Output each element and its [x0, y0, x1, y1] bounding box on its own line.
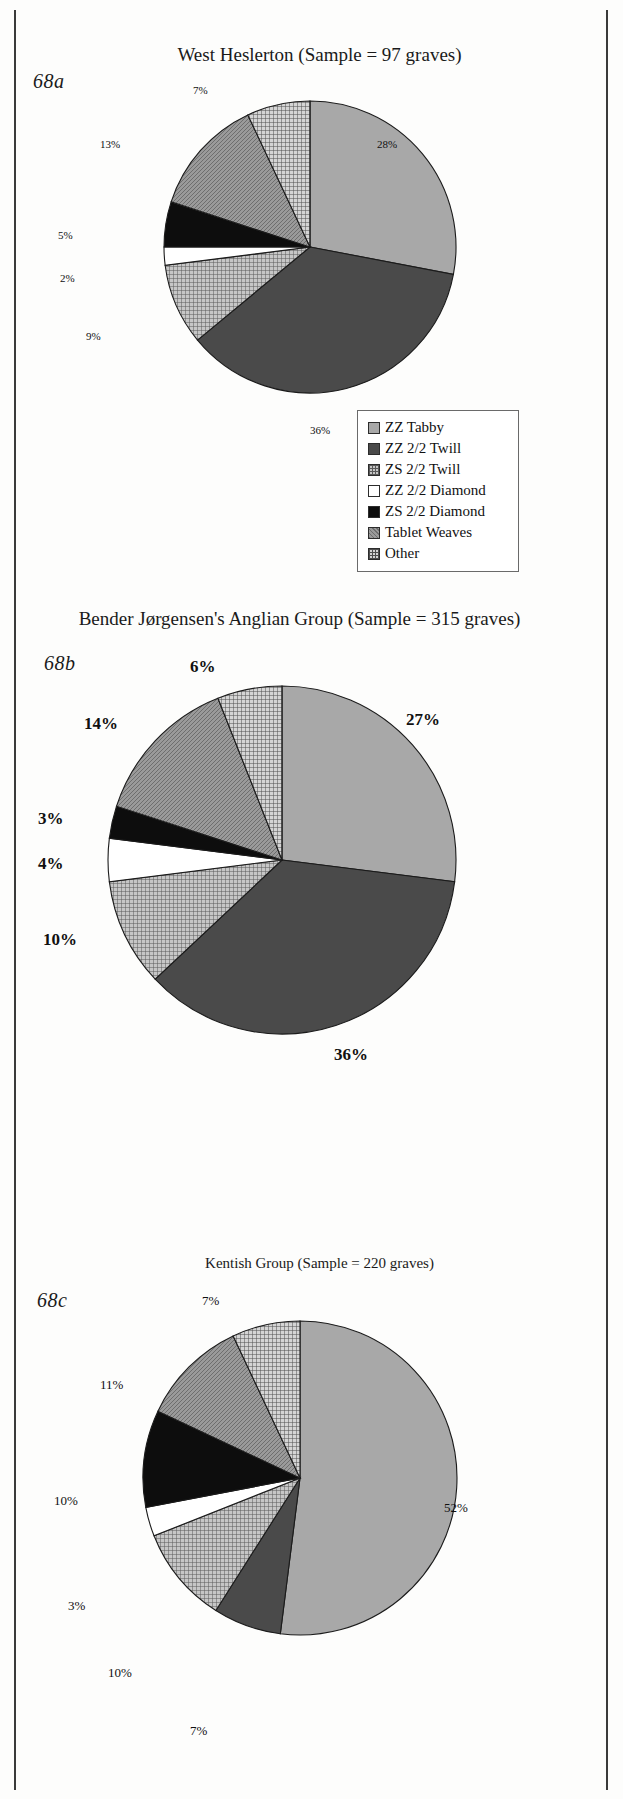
chart-title-68c: Kentish Group (Sample = 220 graves) — [8, 1255, 623, 1272]
legend-item-tablet-weaves[interactable]: Tablet Weaves — [368, 522, 510, 543]
slice-label-68b-tablet: 14% — [84, 714, 118, 734]
slice-label-68a-zz22t: 36% — [310, 424, 330, 436]
legend-swatch-icon-tablet-weaves — [368, 527, 380, 539]
slice-label-68c-other: 7% — [202, 1293, 219, 1309]
legend-item-zs-2-2-diamond[interactable]: ZS 2/2 Diamond — [368, 501, 510, 522]
slice-label-68c-zz22d: 3% — [68, 1598, 85, 1614]
slice-label-68b-zz22t: 36% — [334, 1045, 368, 1065]
legend-swatch-icon-zs-2-2-diamond — [368, 506, 380, 518]
legend-swatch-icon-zz-tabby — [368, 422, 380, 434]
slice-label-68c-tabby: 52% — [444, 1500, 468, 1516]
legend-label-zz-2-2-diamond: ZZ 2/2 Diamond — [385, 483, 486, 498]
slice-label-68a-zs22d: 5% — [58, 229, 73, 241]
page-rule-right — [606, 10, 608, 1790]
page-rule-left — [14, 10, 16, 1790]
slice-label-68a-tablet: 13% — [100, 138, 120, 150]
slice-label-68a-zz22d: 2% — [60, 272, 75, 284]
slice-label-68a-other: 7% — [193, 84, 208, 96]
slice-label-68b-tabby: 27% — [406, 710, 440, 730]
figure-page: West Heslerton (Sample = 97 graves) 68a … — [0, 0, 623, 1799]
legend-label-zs-2-2-diamond: ZS 2/2 Diamond — [385, 504, 485, 519]
pie-chart-68c — [140, 1318, 460, 1638]
legend-label-other: Other — [385, 546, 419, 561]
slice-label-68c-zs22d: 10% — [54, 1493, 78, 1509]
slice-label-68c-zs22t: 10% — [108, 1665, 132, 1681]
pie-slice — [280, 1321, 457, 1635]
pie-slice — [310, 101, 456, 274]
legend-item-zz-2-2-twill[interactable]: ZZ 2/2 Twill — [368, 438, 510, 459]
chart-title-68b: Bender Jørgensen's Anglian Group (Sample… — [0, 608, 611, 630]
slice-label-68c-tablet: 11% — [100, 1377, 123, 1393]
legend-label-tablet-weaves: Tablet Weaves — [385, 525, 472, 540]
slice-label-68a-zs22t: 9% — [86, 330, 101, 342]
figure-label-68b: 68b — [44, 652, 76, 675]
chart-title-68a: West Heslerton (Sample = 97 graves) — [8, 44, 623, 66]
legend-item-zz-tabby[interactable]: ZZ Tabby — [368, 417, 510, 438]
slice-label-68b-zs22d: 3% — [38, 809, 64, 829]
legend: ZZ Tabby ZZ 2/2 Twill ZS 2/2 Twill ZZ 2/… — [357, 410, 519, 572]
figure-label-68a: 68a — [33, 70, 65, 93]
legend-item-zs-2-2-twill[interactable]: ZS 2/2 Twill — [368, 459, 510, 480]
legend-item-other[interactable]: Other — [368, 543, 510, 564]
legend-swatch-icon-other — [368, 548, 380, 560]
pie-chart-68b — [105, 683, 459, 1037]
slice-label-68c-zz22t: 7% — [190, 1723, 207, 1739]
slice-label-68b-zz22d: 4% — [38, 854, 64, 874]
legend-swatch-icon-zs-2-2-twill — [368, 464, 380, 476]
legend-swatch-icon-zz-2-2-diamond — [368, 485, 380, 497]
legend-label-zz-2-2-twill: ZZ 2/2 Twill — [385, 441, 461, 456]
legend-swatch-icon-zz-2-2-twill — [368, 443, 380, 455]
figure-label-68c: 68c — [37, 1289, 67, 1312]
pie-chart-68a — [161, 98, 459, 396]
legend-label-zz-tabby: ZZ Tabby — [385, 420, 444, 435]
slice-label-68b-zs22t: 10% — [43, 930, 77, 950]
slice-label-68b-other: 6% — [190, 657, 216, 677]
legend-label-zs-2-2-twill: ZS 2/2 Twill — [385, 462, 460, 477]
legend-item-zz-2-2-diamond[interactable]: ZZ 2/2 Diamond — [368, 480, 510, 501]
slice-label-68a-tabby: 28% — [377, 138, 397, 150]
